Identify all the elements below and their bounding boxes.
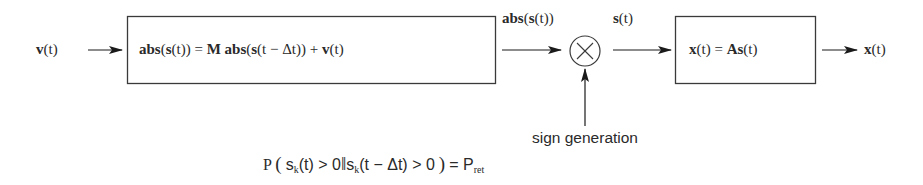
eq1-delay: (t − Δt)) + [257, 41, 322, 57]
sign-probability-condition: P ( sk(t) > 0‖sk(t − Δt) > 0 ) = Pret [263, 154, 484, 175]
mixing-equation: x(t) = As(t) [689, 42, 757, 57]
v-bold: v [36, 41, 44, 57]
prob-t1: (t) > 0 [299, 156, 341, 173]
s-rest: (t) [619, 10, 633, 26]
edge-label-s: s(t) [613, 11, 633, 26]
prob-t2: (t − Δt) > 0 [359, 156, 435, 173]
eq2-t: (t) [743, 41, 757, 57]
multiplier-icon [570, 36, 600, 66]
abs-bold: abs [502, 10, 524, 26]
eq1-t-eq: (t)) = [172, 41, 207, 57]
eq1-m-abs: M abs [207, 41, 247, 57]
prob-s1: s [286, 156, 294, 173]
eq2-eq: (t) = [697, 41, 727, 57]
output-signal-label: x(t) [864, 42, 886, 57]
edge-label-abs-s: abs(s(t)) [502, 11, 554, 26]
eq1-t: (t) [329, 41, 343, 57]
prob-close: ) [439, 153, 445, 174]
eq1-abs: abs [139, 41, 161, 57]
x-rest: (t) [872, 41, 886, 57]
prob-ret: ret [474, 164, 485, 175]
prob-eq: = P [449, 156, 473, 173]
eq2-x: x [689, 41, 697, 57]
recurrence-equation: abs(s(t)) = M abs(s(t − Δt)) + v(t) [139, 42, 344, 57]
prob-p: P [263, 156, 271, 173]
input-signal-label: v(t) [36, 42, 58, 57]
prob-open: ( [275, 153, 281, 174]
block-diagram: v(t) abs(s(t)) = M abs(s(t − Δt)) + v(t)… [0, 0, 923, 185]
eq2-as: As [727, 41, 744, 57]
v-rest: (t) [44, 41, 58, 57]
sign-generation-label: sign generation [532, 130, 638, 146]
x-bold: x [864, 41, 872, 57]
abs-rest: (t)) [535, 10, 554, 26]
